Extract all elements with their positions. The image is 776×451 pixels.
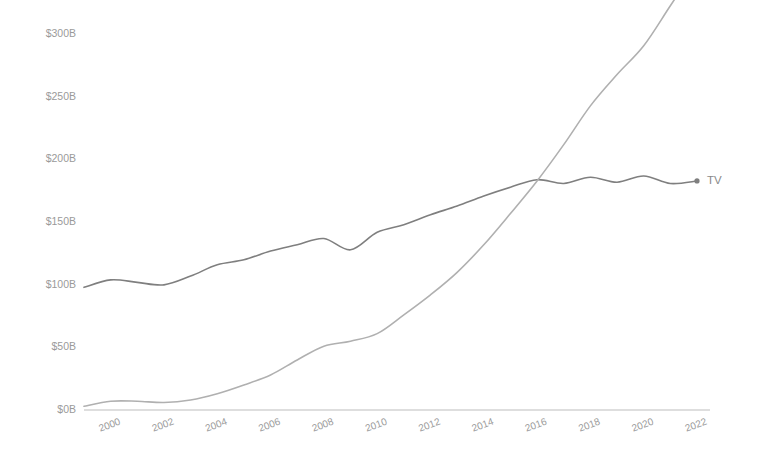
x-tick-label: 2016 <box>524 416 549 434</box>
x-tick-label: 2008 <box>310 416 335 434</box>
x-tick-label: 2022 <box>683 416 708 434</box>
x-tick-label: 2014 <box>470 416 495 434</box>
x-tick-label: 2010 <box>364 416 389 434</box>
y-tick-label: $300B <box>46 27 76 39</box>
series-label-tv: TV <box>707 174 722 186</box>
series-end-labels: TVDigital <box>707 0 739 186</box>
y-axis-tick-labels: $0B$50B$100B$150B$200B$250B$300B <box>46 27 76 414</box>
x-tick-label: 2006 <box>257 416 282 434</box>
x-tick-label: 2000 <box>97 416 122 434</box>
y-tick-label: $0B <box>57 403 76 415</box>
endpoint-marker-tv <box>694 178 699 183</box>
y-tick-label: $250B <box>46 90 76 102</box>
x-tick-label: 2018 <box>577 416 602 434</box>
y-tick-label: $200B <box>46 152 76 164</box>
x-tick-label: 2004 <box>204 416 229 434</box>
series-endpoint-markers <box>694 0 699 184</box>
y-tick-label: $100B <box>46 278 76 290</box>
chart-canvas: $0B$50B$100B$150B$200B$250B$300B 2000200… <box>0 0 776 451</box>
series-lines <box>84 0 697 406</box>
line-chart: $0B$50B$100B$150B$200B$250B$300B 2000200… <box>0 0 776 451</box>
y-tick-label: $150B <box>46 215 76 227</box>
x-tick-label: 2002 <box>150 416 175 434</box>
series-line-digital <box>84 0 697 406</box>
x-tick-label: 2012 <box>417 416 442 434</box>
x-tick-label: 2020 <box>630 416 655 434</box>
x-axis-tick-labels: 2000200220042006200820102012201420162018… <box>97 416 708 434</box>
series-line-tv <box>84 176 697 287</box>
y-tick-label: $50B <box>51 340 76 352</box>
